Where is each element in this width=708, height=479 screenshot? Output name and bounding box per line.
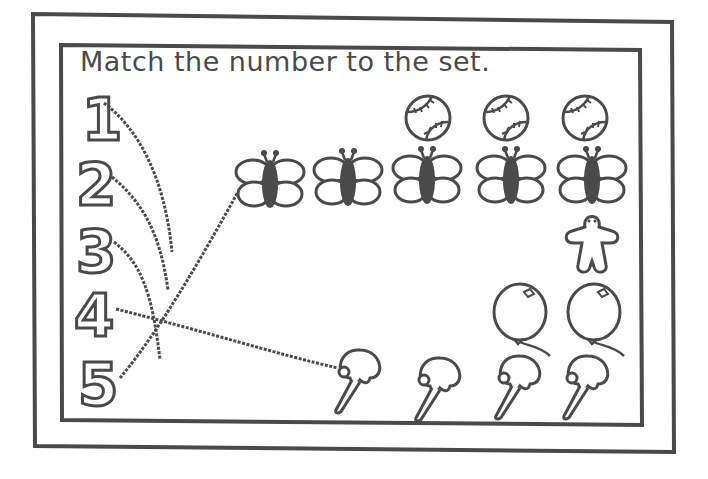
numbers-column: 1 2 3 4 5 xyxy=(74,86,122,419)
number-3: 3 xyxy=(76,218,116,286)
drawn-lines xyxy=(104,103,338,378)
set-butterflies xyxy=(236,146,626,208)
line-from-3 xyxy=(114,242,160,360)
set-ice-cream-cones xyxy=(336,350,608,421)
set-baseballs xyxy=(406,96,607,140)
number-2: 2 xyxy=(76,151,116,219)
line-from-5 xyxy=(120,192,238,378)
set-balloons xyxy=(494,284,624,356)
line-from-4 xyxy=(116,309,338,368)
worksheet: 1 2 3 4 5 xyxy=(0,0,708,479)
set-gingerbread-man xyxy=(566,217,618,273)
number-1: 1 xyxy=(82,86,122,154)
worksheet-title: Match the number to the set. xyxy=(80,46,490,77)
number-5: 5 xyxy=(78,351,118,419)
number-4: 4 xyxy=(74,282,114,350)
